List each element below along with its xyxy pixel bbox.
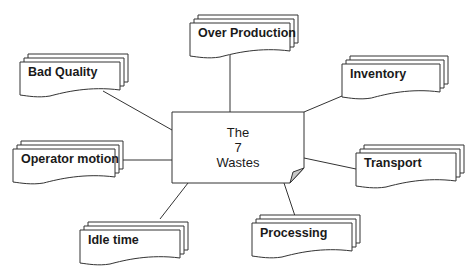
center-node: The 7 Wastes	[172, 112, 304, 183]
waste-node-bad-quality: Bad Quality	[20, 54, 128, 97]
center-title-line-2: 7	[234, 140, 241, 155]
waste-label: Bad Quality	[28, 65, 98, 79]
center-title-line-1: The	[227, 125, 249, 140]
connector-idle-time	[160, 183, 188, 219]
seven-wastes-diagram: The 7 Wastes Over ProductionBad QualityI…	[0, 0, 473, 274]
waste-label: Transport	[364, 156, 422, 170]
connector-transport	[304, 158, 356, 169]
waste-node-over-production: Over Production	[190, 15, 298, 58]
waste-node-operator-motion: Operator motion	[13, 141, 123, 184]
connector-bad-quality	[103, 91, 172, 130]
waste-label: Processing	[260, 226, 327, 240]
waste-label: Operator motion	[21, 152, 119, 166]
waste-label: Over Production	[198, 26, 296, 40]
connector-processing	[284, 183, 296, 219]
center-title-line-3: Wastes	[217, 155, 260, 170]
waste-node-transport: Transport	[356, 145, 464, 188]
waste-node-idle-time: Idle time	[80, 222, 188, 265]
waste-label: Inventory	[350, 67, 406, 81]
connector-inventory	[304, 96, 342, 112]
waste-node-processing: Processing	[252, 215, 360, 258]
waste-label: Idle time	[88, 233, 139, 247]
waste-node-inventory: Inventory	[342, 56, 448, 99]
